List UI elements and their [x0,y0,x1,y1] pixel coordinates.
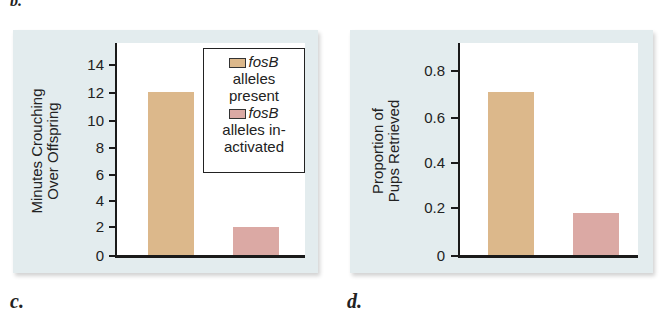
previous-panel-letter-fragment: b. [10,0,22,10]
y-axis-label-line1: Proportion of [370,91,386,211]
y-axis-label-line2: Pups Retrieved [386,91,402,211]
legend-text: present [210,87,298,104]
legend-swatch-inactivated [229,109,246,119]
y-axis-label-line2: Over Offspring [45,76,61,226]
panel-letter-c: c. [10,290,24,313]
bar-fosb-inactivated-d [573,213,619,255]
tick-label: 10 [64,113,104,128]
legend-text: alleles [210,70,298,87]
tick-label: 14 [64,57,104,72]
tick-label: 6 [64,167,104,182]
tick-label: 0.2 [405,200,445,215]
tick-label: 8 [64,140,104,155]
tick-label: 0 [405,248,445,263]
y-axis-label-c: Minutes Crouching Over Offspring [29,76,63,226]
x-axis-c [115,255,305,258]
legend-text: activated [210,138,298,155]
panel-letter-d: d. [347,290,362,313]
legend-text: alleles in- [210,121,298,138]
y-axis-c [115,43,117,257]
tick-label: 0.8 [405,63,445,78]
tick-label: 4 [64,193,104,208]
tick-label: 12 [64,85,104,100]
bar-fosb-present-c [148,92,194,255]
tick-label: 0.6 [405,110,445,125]
y-axis-d [458,43,460,257]
x-axis-d [458,255,638,258]
bar-fosb-inactivated-c [233,227,279,255]
legend-entry-inactivated: fosB [210,104,298,121]
legend-gene-name: fosB [248,53,278,70]
legend-gene-name: fosB [248,104,278,121]
y-axis-label-line1: Minutes Crouching [29,76,45,226]
legend-swatch-present [229,58,246,68]
tick-label: 0 [64,248,104,263]
y-axis-label-d: Proportion of Pups Retrieved [370,91,404,211]
legend-entry-present: fosB [210,53,298,70]
legend-c: fosB alleles present fosB alleles in- ac… [203,48,305,173]
bar-fosb-present-d [488,92,534,255]
tick-label: 2 [64,219,104,234]
tick-label: 0.4 [405,155,445,170]
